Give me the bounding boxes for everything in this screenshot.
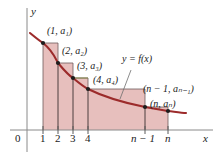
x-tick-label-1: 1: [40, 133, 46, 144]
x-tick-label-3: 3: [70, 133, 76, 144]
point-label-3: (3, a₃): [77, 61, 102, 71]
x-tick-label-n: n: [165, 133, 171, 144]
point-label-4: (4, a₄): [93, 75, 118, 85]
point-label-n-minus-1: (n − 1, aₙ₋₁): [143, 84, 194, 94]
origin-label: 0: [15, 133, 21, 144]
x-axis-label: x: [203, 133, 208, 144]
x-tick-label-n-minus-1: n − 1: [131, 133, 155, 144]
point-label-1: (1, a₁): [47, 26, 72, 36]
figure-canvas: y x 0 1 2 3 4 n − 1 n (1, a₁) (2, a₂) (3…: [0, 0, 221, 164]
point-label-n: (n, aₙ): [150, 99, 176, 109]
x-tick-label-2: 2: [55, 133, 61, 144]
function-label: y = f(x): [122, 54, 152, 64]
point-label-2: (2, a₂): [62, 46, 87, 56]
x-tick-label-4: 4: [85, 133, 91, 144]
y-axis-label: y: [31, 6, 36, 17]
